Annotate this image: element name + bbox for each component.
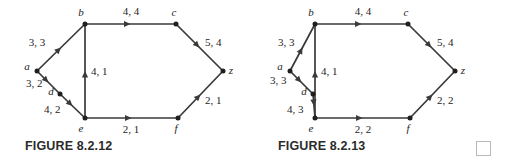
qed-square-icon	[476, 141, 491, 156]
node-c-label: c	[404, 6, 409, 18]
edge-c-z: 5, 4	[176, 24, 223, 71]
edge-d-e-label: 4, 2	[44, 103, 61, 115]
node-d-dot	[58, 92, 63, 97]
edge-e-f: 2, 2	[315, 115, 410, 135]
figure-pair-page: 3, 33, 24, 24, 14, 45, 42, 12, 1abcdefz …	[0, 0, 507, 167]
edge-e-b: 4, 1	[312, 24, 338, 118]
node-d: d	[301, 85, 315, 97]
node-a-label: a	[277, 60, 283, 72]
node-d: d	[48, 85, 62, 97]
node-e-dot	[83, 116, 88, 121]
edge-b-c: 4, 4	[85, 5, 176, 27]
edge-a-d-label: 3, 2	[26, 77, 43, 89]
edge-e-b-arrowhead-icon	[82, 71, 88, 78]
node-e-label: e	[309, 122, 314, 134]
node-a: a	[24, 60, 39, 74]
edge-a-d: 3, 2	[26, 71, 60, 94]
node-z: z	[453, 64, 466, 76]
node-z-dot	[221, 69, 226, 74]
node-c-dot	[406, 22, 411, 27]
node-b: b	[308, 6, 317, 27]
node-d-label: d	[301, 85, 307, 97]
edge-f-z-label: 2, 1	[205, 94, 222, 106]
edge-e-f: 2, 1	[85, 115, 178, 135]
figure-8-2-12: 3, 33, 24, 24, 14, 45, 42, 12, 1abcdefz …	[0, 0, 254, 167]
edge-b-c-label: 4, 4	[355, 5, 372, 17]
edge-e-f-label: 2, 1	[123, 123, 140, 135]
edge-e-f-arrowhead-icon	[356, 115, 363, 121]
node-b-dot	[83, 22, 88, 27]
edge-e-b-arrowhead-icon	[312, 71, 318, 78]
edge-b-c-arrowhead-icon	[355, 21, 362, 27]
node-z-label: z	[228, 64, 234, 76]
edge-f-z: 2, 2	[410, 71, 455, 118]
edge-e-b-label: 4, 1	[91, 65, 108, 77]
node-a-dot	[288, 69, 293, 74]
node-e: e	[309, 116, 318, 135]
edge-d-e: 4, 2	[44, 94, 85, 118]
node-f-dot	[408, 116, 413, 121]
node-b-dot	[313, 22, 318, 27]
edge-a-b: 3, 3	[278, 24, 315, 71]
node-e: e	[79, 116, 88, 135]
edge-d-e-arrowhead-icon	[310, 99, 317, 106]
node-b-label: b	[308, 6, 314, 18]
edge-c-z: 5, 4	[408, 24, 455, 71]
edge-d-e: 4, 3	[287, 94, 317, 118]
edge-d-e-label: 4, 3	[287, 103, 304, 115]
node-f-label: f	[174, 122, 179, 134]
figure-8-2-13-caption: FIGURE 8.2.13	[278, 139, 365, 153]
node-z: z	[221, 64, 234, 76]
figure-8-2-13: 3, 33, 34, 34, 14, 45, 42, 22, 2abcdefz …	[253, 0, 507, 167]
edge-c-z-label: 5, 4	[205, 36, 222, 48]
edge-b-c-arrowhead-icon	[124, 21, 131, 27]
edge-f-z-label: 2, 2	[437, 94, 454, 106]
figure-8-2-12-caption: FIGURE 8.2.12	[25, 139, 112, 153]
edge-c-z-label: 5, 4	[437, 36, 454, 48]
edge-b-c-label: 4, 4	[123, 5, 140, 17]
edge-f-z: 2, 1	[178, 71, 223, 118]
edge-e-b-label: 4, 1	[321, 65, 338, 77]
edge-e-f-arrowhead-icon	[125, 115, 132, 121]
node-c-dot	[174, 22, 179, 27]
edge-a-b-label: 3, 3	[278, 36, 295, 48]
node-a: a	[277, 60, 292, 74]
edge-e-b: 4, 1	[82, 24, 108, 118]
node-b: b	[78, 6, 87, 27]
edge-b-c: 4, 4	[315, 5, 408, 27]
node-z-label: z	[460, 64, 466, 76]
edge-e-f-label: 2, 2	[355, 123, 372, 135]
node-a-dot	[35, 69, 40, 74]
node-b-label: b	[78, 6, 84, 18]
node-f-label: f	[406, 122, 411, 134]
edge-a-b-label: 3, 3	[29, 36, 46, 48]
node-d-label: d	[48, 85, 54, 97]
node-e-dot	[313, 116, 318, 121]
figure-8-2-12-graph: 3, 33, 24, 24, 14, 45, 42, 12, 1abcdefz	[0, 0, 254, 140]
node-z-dot	[453, 69, 458, 74]
edge-a-b-arrowhead-icon	[297, 46, 306, 55]
edge-a-b: 3, 3	[29, 24, 85, 71]
node-f-dot	[176, 116, 181, 121]
node-e-label: e	[79, 122, 84, 134]
node-d-dot	[311, 92, 316, 97]
edge-a-d-label: 3, 3	[270, 74, 287, 86]
figure-8-2-13-graph: 3, 33, 34, 34, 14, 45, 42, 22, 2abcdefz	[253, 0, 507, 140]
node-c-label: c	[172, 6, 177, 18]
node-a-label: a	[24, 60, 30, 72]
